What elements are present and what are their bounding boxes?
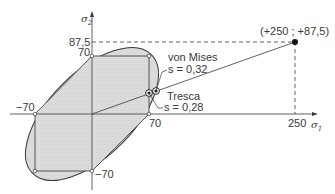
tick-y-70: 70 (78, 46, 90, 58)
tick-x-250: 250 (288, 117, 306, 129)
yield-criteria-diagram: σ2 σ1 87,5 70 −70 70 −70 250 (+250 ; +87… (0, 0, 335, 194)
von-mises-label: von Mises (168, 51, 218, 63)
tresca-safety-factor: s = 0,28 (164, 101, 203, 113)
sigma1-axis-label: σ1 (311, 119, 322, 133)
load-point-label: (+250 ; +87,5) (260, 25, 329, 37)
load-point-marker (292, 39, 298, 45)
von-mises-safety-factor: s = 0,32 (168, 63, 207, 75)
tick-y-neg70: −70 (95, 168, 114, 180)
tick-x-neg70: −70 (16, 101, 35, 113)
diagram-canvas: σ2 σ1 87,5 70 −70 70 −70 250 (+250 ; +87… (0, 0, 335, 194)
tick-x-70: 70 (149, 117, 161, 129)
